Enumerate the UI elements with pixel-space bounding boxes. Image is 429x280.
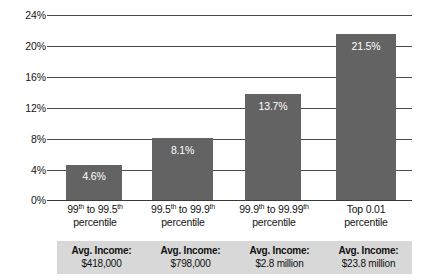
income-cell-2: Avg. Income: $798,000 [146, 245, 235, 270]
y-axis-tick-20: 20% [2, 41, 46, 52]
income-cell-4-label: Avg. Income: [324, 245, 413, 258]
x-axis-label-1-line1: 99th to 99.5th [67, 203, 123, 215]
bar-value-label-4: 21.5% [336, 41, 396, 52]
x-axis-label-3-line1: 99.9th to 99.99th [239, 203, 309, 215]
bar-value-label-2: 8.1% [152, 145, 213, 156]
y-axis-tick-12: 12% [2, 103, 46, 114]
gridline-24 [47, 15, 412, 16]
income-cell-1-value: $418,000 [57, 258, 146, 271]
gridline-0 [47, 200, 412, 201]
income-cell-4: Avg. Income: $23.8 million [324, 245, 413, 270]
average-income-band: Avg. Income: $418,000 Avg. Income: $798,… [57, 241, 412, 274]
x-axis-label-4-line1: Top 0.01 [347, 203, 386, 215]
income-cell-4-value: $23.8 million [324, 258, 413, 271]
income-cell-3: Avg. Income: $2.8 million [235, 245, 324, 270]
bar-2: 8.1% [152, 138, 213, 200]
income-cell-2-value: $798,000 [146, 258, 235, 271]
income-cell-3-value: $2.8 million [235, 258, 324, 271]
income-cell-2-label: Avg. Income: [146, 245, 235, 258]
bar-3: 13.7% [245, 94, 301, 200]
x-axis-label-4: Top 0.01 percentile [320, 203, 412, 229]
x-axis-label-3-line2: percentile [224, 216, 324, 229]
bar-value-label-1: 4.6% [66, 171, 122, 182]
income-cell-3-label: Avg. Income: [235, 245, 324, 258]
x-axis-label-3: 99.9th to 99.99th percentile [224, 203, 324, 229]
ordinal-suffix-icon: th [210, 203, 215, 210]
bar-4: 21.5% [336, 34, 396, 200]
ordinal-suffix-icon: th [117, 203, 122, 210]
bar-1: 4.6% [66, 165, 122, 200]
income-cell-1: Avg. Income: $418,000 [57, 245, 146, 270]
x-axis-label-4-line2: percentile [320, 216, 412, 229]
x-axis-label-2: 99.5th to 99.9th percentile [136, 203, 230, 229]
x-axis-label-2-line2: percentile [136, 216, 230, 229]
x-axis-label-2-line1: 99.5th to 99.9th [151, 203, 215, 215]
x-axis-label-1: 99th to 99.5th percentile [48, 203, 142, 229]
y-axis-tick-0: 0% [2, 195, 46, 206]
y-axis-tick-8: 8% [2, 134, 46, 145]
income-cell-1-label: Avg. Income: [57, 245, 146, 258]
y-axis-tick-16: 16% [2, 72, 46, 83]
x-axis-label-1-line2: percentile [48, 216, 142, 229]
y-axis-tick-4: 4% [2, 165, 46, 176]
y-axis-tick-24: 24% [2, 10, 46, 21]
ordinal-suffix-icon: th [303, 203, 308, 210]
bar-value-label-3: 13.7% [245, 101, 301, 112]
bar-chart: 24% 20% 16% 12% 8% 4% 0% 4.6% 8.1% 13.7%… [0, 0, 429, 280]
